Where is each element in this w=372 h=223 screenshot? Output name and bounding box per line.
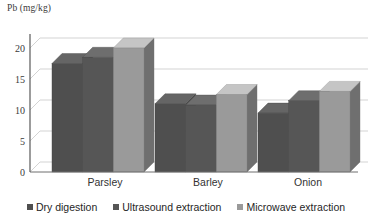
y-tick-0: 0 bbox=[5, 167, 25, 178]
legend-swatch-icon-series1 bbox=[27, 204, 33, 210]
legend-label-series1: Dry digestion bbox=[36, 201, 97, 213]
y-tick-15: 15 bbox=[5, 74, 25, 85]
bar-onion-series3 bbox=[319, 81, 360, 172]
category-label-onion: Onion bbox=[258, 176, 358, 188]
legend-label-series3: Microwave extraction bbox=[246, 201, 345, 213]
bar-barley-series3 bbox=[216, 85, 257, 173]
bar-parsley-series3 bbox=[113, 38, 154, 172]
y-tick-20: 20 bbox=[5, 43, 25, 54]
chart-legend: Dry digestion Ultrasound extraction Micr… bbox=[0, 201, 372, 213]
legend-label-series2: Ultrasound extraction bbox=[122, 201, 221, 213]
legend-item-dry-digestion: Dry digestion bbox=[27, 201, 97, 213]
chart-container: Pb (mg/kg) 20 15 10 5 0 Parsley Barley O… bbox=[0, 0, 372, 223]
category-label-barley: Barley bbox=[158, 176, 258, 188]
gridline-20 bbox=[30, 38, 368, 48]
legend-item-microwave-extraction: Microwave extraction bbox=[237, 201, 345, 213]
legend-swatch-icon-series2 bbox=[113, 204, 119, 210]
legend-swatch-icon-series3 bbox=[237, 204, 243, 210]
plot-area bbox=[0, 0, 372, 200]
category-label-parsley: Parsley bbox=[55, 176, 155, 188]
y-tick-10: 10 bbox=[5, 105, 25, 116]
y-tick-5: 5 bbox=[5, 136, 25, 147]
legend-item-ultrasound-extraction: Ultrasound extraction bbox=[113, 201, 221, 213]
y-axis-title: Pb (mg/kg) bbox=[7, 3, 51, 13]
